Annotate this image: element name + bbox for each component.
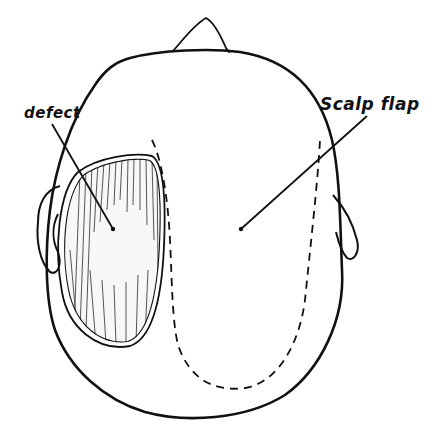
defect-label: defect [24,104,81,122]
scalp-flap-leader-line [241,116,367,229]
nose-outline [172,18,230,52]
defect-pointer-dot [111,227,115,231]
head-diagram [0,0,435,443]
scalp-flap-pointer-dot [239,227,243,231]
scalp-flap-incision [152,140,320,389]
scalp-flap-label: Scalp flap [320,94,420,114]
defect-area [64,158,161,345]
right-ear-outline [333,195,358,259]
